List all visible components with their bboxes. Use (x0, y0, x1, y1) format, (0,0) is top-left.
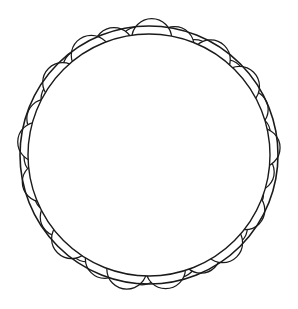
mandala-svg (0, 0, 298, 309)
mandala-artboard (0, 0, 298, 309)
inner-boundary-circle (28, 34, 270, 276)
